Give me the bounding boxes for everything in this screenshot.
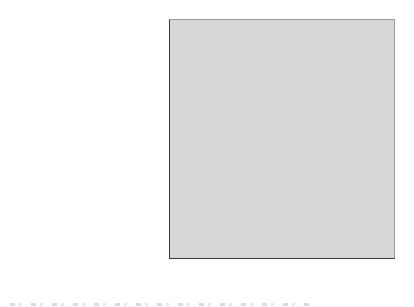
bar-chart-figure: [0, 0, 414, 307]
plot-area: [169, 19, 395, 259]
cutoff-caption-remnant: [10, 303, 310, 306]
